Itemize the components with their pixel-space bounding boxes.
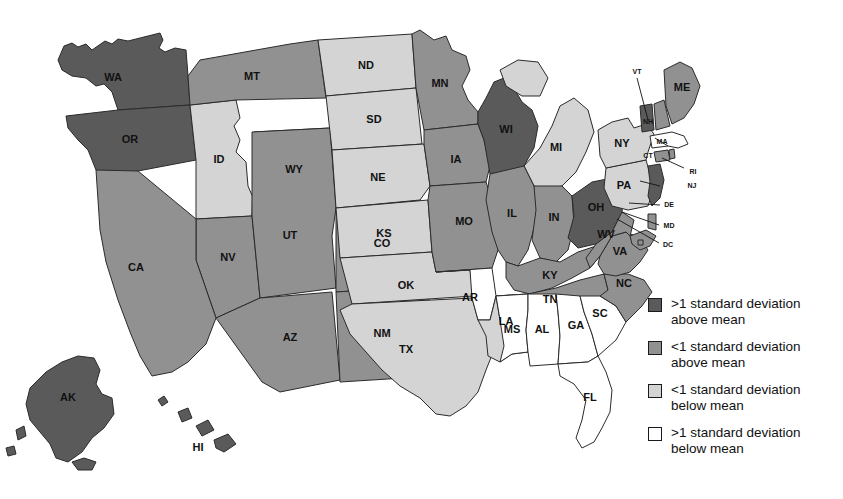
state-label-nj: NJ [688, 182, 697, 189]
state-label-ks: KS [376, 227, 391, 239]
state-label-ma: MA [657, 138, 668, 145]
state-label-nd: ND [358, 59, 374, 71]
state-label-az: AZ [283, 331, 298, 343]
legend: >1 standard deviation above mean <1 stan… [648, 296, 838, 468]
legend-line1: >1 standard deviation [671, 296, 800, 311]
state-label-ak: AK [60, 391, 76, 403]
legend-label-below-sub1sd: <1 standard deviation below mean [671, 382, 800, 414]
state-label-al: AL [535, 323, 550, 335]
state-ut [252, 128, 336, 298]
state-label-or: OR [122, 133, 139, 145]
legend-swatch-white [648, 427, 662, 441]
state-label-ny: NY [614, 137, 630, 149]
state-label-md: MD [664, 222, 675, 229]
state-label-ar: AR [462, 291, 478, 303]
legend-label-below-1sd: >1 standard deviation below mean [671, 425, 800, 457]
state-label-wi: WI [499, 123, 512, 135]
legend-swatch-medium [648, 341, 662, 355]
state-label-ga: GA [568, 319, 585, 331]
state-label-hi: HI [193, 441, 204, 453]
state-wa [58, 33, 190, 110]
legend-swatch-light [648, 384, 662, 398]
legend-item-below-sub1sd: <1 standard deviation below mean [648, 382, 838, 414]
state-dc [638, 240, 643, 245]
state-label-mi: MI [550, 141, 562, 153]
state-ri [669, 149, 675, 159]
state-label-tn: TN [543, 293, 558, 305]
state-label-ne: NE [370, 171, 385, 183]
state-label-pa: PA [617, 179, 632, 191]
state-label-nm: NM [373, 327, 390, 339]
legend-line1: <1 standard deviation [671, 339, 800, 354]
state-label-me: ME [674, 81, 691, 93]
state-label-ut: UT [283, 229, 298, 241]
legend-label-above-sub1sd: <1 standard deviation above mean [671, 339, 800, 371]
legend-line1: <1 standard deviation [671, 382, 800, 397]
legend-label-above-1sd: >1 standard deviation above mean [671, 296, 800, 328]
legend-line2: above mean [671, 312, 745, 327]
state-label-ct: CT [643, 152, 653, 159]
state-ak [6, 356, 114, 470]
legend-line2: below mean [671, 398, 744, 413]
state-label-ok: OK [398, 279, 415, 291]
state-label-ri: RI [690, 168, 697, 175]
state-label-il: IL [507, 207, 517, 219]
state-label-ia: IA [451, 153, 462, 165]
state-me [664, 62, 700, 124]
legend-item-above-1sd: >1 standard deviation above mean [648, 296, 838, 328]
legend-swatch-dark [648, 298, 662, 312]
legend-line2: below mean [671, 441, 744, 456]
state-label-in: IN [549, 211, 560, 223]
legend-line1: >1 standard deviation [671, 425, 800, 440]
state-label-de: DE [664, 201, 674, 208]
state-label-nv: NV [220, 251, 236, 263]
state-in [532, 186, 574, 262]
state-label-nh: NH [643, 118, 653, 125]
state-label-va: VA [613, 245, 628, 257]
state-label-ky: KY [542, 269, 558, 281]
state-label-ca: CA [128, 261, 144, 273]
state-label-wy: WY [285, 163, 303, 175]
state-label-tx: TX [399, 343, 414, 355]
state-label-fl: FL [583, 391, 597, 403]
map-figure: WAORIDMTWYNVCAUTCOAZNMNDSDNEKSOKTXMNIAMO… [0, 0, 843, 499]
state-label-oh: OH [588, 201, 605, 213]
legend-line2: above mean [671, 355, 745, 370]
state-label-mn: MN [431, 77, 448, 89]
state-label-sd: SD [366, 113, 381, 125]
legend-item-below-1sd: >1 standard deviation below mean [648, 425, 838, 457]
state-label-nc: NC [616, 277, 632, 289]
state-label-wa: WA [104, 71, 122, 83]
state-label-mo: MO [455, 215, 473, 227]
state-label-dc: DC [663, 241, 673, 248]
state-label-wv: WV [597, 228, 615, 240]
state-label-mt: MT [244, 70, 260, 82]
state-label-ms: MS [504, 323, 521, 335]
state-label-id: ID [214, 153, 225, 165]
state-label-vt: VT [633, 68, 643, 75]
legend-item-above-sub1sd: <1 standard deviation above mean [648, 339, 838, 371]
state-label-sc: SC [592, 307, 607, 319]
